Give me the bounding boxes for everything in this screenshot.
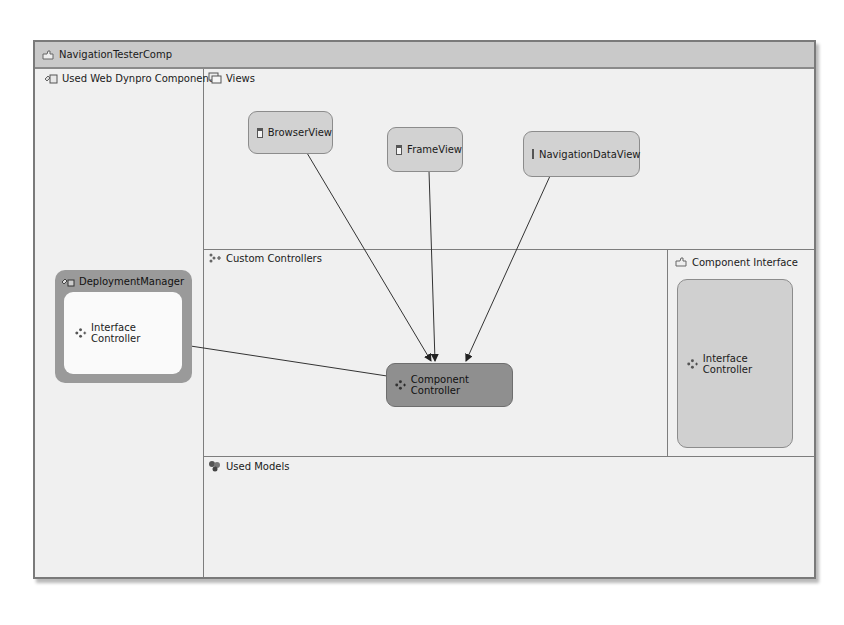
controller-icon	[686, 358, 699, 370]
editor-title-bar: NavigationTesterComp	[35, 42, 814, 69]
used-component-icon	[61, 275, 75, 287]
window-icon	[396, 145, 402, 155]
window-icon	[257, 128, 263, 138]
pane-component-interface: Component Interface	[674, 256, 798, 268]
pane-used-models: Used Models	[208, 460, 289, 472]
deployment-manager-node[interactable]: DeploymentManager Interface Controller	[55, 270, 192, 383]
component-interface-icon	[674, 256, 688, 268]
pane-custom-controllers: Custom Controllers	[208, 252, 322, 264]
divider-components	[203, 69, 204, 577]
pane-used-components: Used Web Dynpro Components	[44, 72, 218, 84]
divider-views	[204, 249, 814, 250]
custom-controllers-icon	[208, 252, 222, 264]
view-node-browserview[interactable]: BrowserView	[248, 111, 333, 154]
used-models-icon	[208, 460, 222, 472]
component-interface-controller-node[interactable]: Interface Controller	[677, 279, 793, 448]
used-components-icon	[44, 72, 58, 84]
component-controller-node[interactable]: Component Controller	[386, 363, 513, 407]
view-node-navigationdataview[interactable]: NavigationDataView	[523, 131, 640, 177]
divider-models	[204, 456, 814, 457]
deployment-manager-interface-controller[interactable]: Interface Controller	[64, 292, 182, 374]
pane-views: Views	[208, 72, 255, 84]
component-icon	[41, 49, 55, 61]
controller-icon	[394, 379, 407, 391]
window-title: NavigationTesterComp	[59, 49, 172, 60]
controller-icon	[74, 327, 87, 339]
window-icon	[532, 149, 534, 159]
views-icon	[208, 72, 222, 84]
view-node-frameview[interactable]: FrameView	[387, 127, 463, 172]
divider-interface	[667, 250, 668, 457]
deployment-manager-title: DeploymentManager	[79, 276, 184, 287]
